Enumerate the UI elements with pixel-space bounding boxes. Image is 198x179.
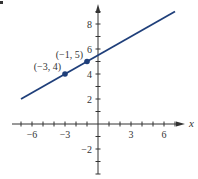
x-tick-label: −3 <box>60 129 71 140</box>
y-tick-label: 8 <box>87 19 92 30</box>
x-tick-label: 3 <box>129 129 134 140</box>
y-tick-label: 4 <box>87 69 92 80</box>
data-point <box>62 71 68 77</box>
x-axis-label: x <box>188 117 194 129</box>
x-tick-label: −6 <box>27 129 38 140</box>
point-label: (−1, 5) <box>56 49 83 61</box>
x-tick-label: 6 <box>162 129 167 140</box>
x-axis-arrow-icon <box>176 122 185 127</box>
y-tick-label: 6 <box>87 44 92 55</box>
y-tick-label: −2 <box>81 144 92 155</box>
y-tick-label: 2 <box>87 94 92 105</box>
data-points: (−3, 4)(−1, 5) <box>34 49 90 77</box>
data-point <box>84 59 90 65</box>
point-label: (−3, 4) <box>34 61 61 73</box>
line-chart: −6−336−22468 (−3, 4)(−1, 5) x <box>0 0 198 179</box>
